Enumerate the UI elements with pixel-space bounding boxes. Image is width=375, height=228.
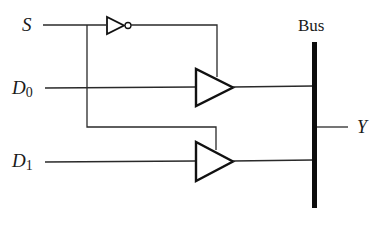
d0-wire <box>45 87 195 88</box>
buffer0-output-wire <box>233 86 313 87</box>
d0-label: D0 <box>11 77 33 100</box>
inverter-gate <box>107 17 131 34</box>
tri-state-mux-diagram: S D0 D1 Bus Y <box>0 0 375 228</box>
buffer1-output-wire <box>233 160 313 161</box>
inverted-select-wire <box>131 25 217 77</box>
bus-line <box>312 42 317 208</box>
select-label: S <box>22 14 32 35</box>
output-label: Y <box>357 117 369 137</box>
d1-label: D1 <box>11 150 33 173</box>
d1-wire <box>45 161 195 162</box>
tri-state-buffer-1 <box>196 142 233 181</box>
inverter-bubble-icon <box>125 23 131 29</box>
tri-state-buffer-0 <box>196 69 233 106</box>
bus-label: Bus <box>298 16 324 35</box>
